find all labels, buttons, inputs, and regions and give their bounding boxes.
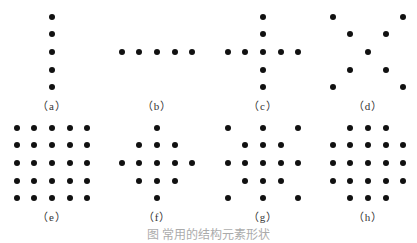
- dot: [365, 142, 371, 148]
- dot: [400, 84, 406, 90]
- dot: [260, 49, 266, 55]
- dot: [347, 125, 353, 131]
- dot: [260, 195, 266, 201]
- dot: [31, 160, 37, 166]
- dot: [330, 160, 336, 166]
- dot: [49, 142, 55, 148]
- dot: [365, 195, 371, 201]
- dot: [14, 178, 20, 184]
- dot: [136, 160, 142, 166]
- dot: [225, 160, 231, 166]
- dot: [225, 49, 231, 55]
- dot: [295, 195, 301, 201]
- dot: [136, 142, 142, 148]
- dot: [295, 49, 301, 55]
- dot: [14, 142, 20, 148]
- dot: [154, 49, 160, 55]
- dot: [67, 142, 73, 148]
- panel-label: （h）: [316, 208, 417, 224]
- dot: [49, 84, 55, 90]
- dot: [49, 67, 55, 73]
- dot: [84, 195, 90, 201]
- dot: [14, 160, 20, 166]
- dot: [400, 178, 406, 184]
- panel-label: （c）: [211, 97, 315, 113]
- dot: [383, 125, 389, 131]
- dot: [242, 49, 248, 55]
- dot: [31, 178, 37, 184]
- dot: [295, 160, 301, 166]
- dot: [31, 195, 37, 201]
- dot: [383, 178, 389, 184]
- dot: [14, 195, 20, 201]
- dot: [172, 160, 178, 166]
- dot: [14, 125, 20, 131]
- dot: [119, 49, 125, 55]
- dot: [67, 160, 73, 166]
- dot: [400, 14, 406, 20]
- dot: [260, 31, 266, 37]
- figure-caption: 图 常用的结构元素形状: [0, 225, 417, 243]
- dot: [347, 67, 353, 73]
- dot: [172, 49, 178, 55]
- dot: [136, 49, 142, 55]
- dot: [225, 125, 231, 131]
- panel-label: （f）: [105, 208, 209, 224]
- dot: [242, 178, 248, 184]
- dot: [189, 49, 195, 55]
- dot: [67, 178, 73, 184]
- dot: [189, 160, 195, 166]
- dot: [67, 195, 73, 201]
- dot: [347, 31, 353, 37]
- dot: [154, 178, 160, 184]
- dot: [330, 142, 336, 148]
- dot: [31, 125, 37, 131]
- dot: [365, 125, 371, 131]
- panel-label: （e）: [0, 208, 104, 224]
- dot: [383, 31, 389, 37]
- dot: [383, 195, 389, 201]
- dot: [278, 49, 284, 55]
- dot: [347, 195, 353, 201]
- dot: [84, 125, 90, 131]
- dot: [84, 178, 90, 184]
- dot: [49, 195, 55, 201]
- dot: [225, 195, 231, 201]
- dot: [365, 49, 371, 55]
- dot: [260, 142, 266, 148]
- dot: [278, 160, 284, 166]
- dot: [49, 125, 55, 131]
- dot: [242, 160, 248, 166]
- dot: [154, 195, 160, 201]
- dot: [242, 142, 248, 148]
- dot: [400, 142, 406, 148]
- dot: [154, 125, 160, 131]
- dot: [260, 67, 266, 73]
- dot: [84, 160, 90, 166]
- dot: [49, 49, 55, 55]
- dot: [84, 142, 90, 148]
- dot: [383, 160, 389, 166]
- panel-label: （d）: [316, 97, 417, 113]
- dot: [260, 178, 266, 184]
- dot: [49, 14, 55, 20]
- dot: [172, 178, 178, 184]
- dot: [119, 160, 125, 166]
- dot: [67, 125, 73, 131]
- dot: [330, 178, 336, 184]
- dot: [49, 31, 55, 37]
- dot: [31, 142, 37, 148]
- dot: [136, 178, 142, 184]
- dot: [172, 142, 178, 148]
- dot: [154, 142, 160, 148]
- dot: [347, 142, 353, 148]
- dot: [365, 160, 371, 166]
- dot: [260, 125, 266, 131]
- dot: [347, 160, 353, 166]
- dot: [330, 84, 336, 90]
- dot: [365, 178, 371, 184]
- panel-label: （b）: [105, 97, 209, 113]
- dot: [400, 160, 406, 166]
- dot: [347, 178, 353, 184]
- dot: [260, 84, 266, 90]
